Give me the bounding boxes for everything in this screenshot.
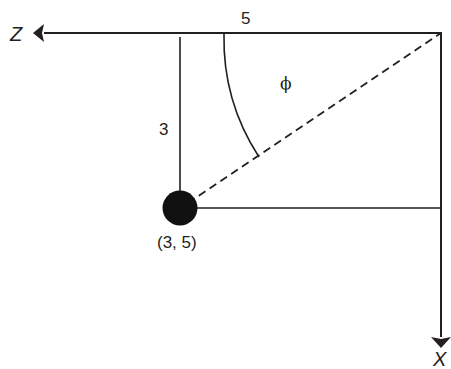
z-axis-label: Z [9, 23, 23, 45]
angle-label: ϕ [280, 73, 292, 93]
side-length-label: 3 [159, 120, 168, 139]
diagram-canvas: Z X 5 3 ϕ (3, 5) [0, 0, 451, 369]
point-marker [163, 191, 198, 226]
z-axis-arrowhead-icon [33, 24, 44, 42]
dashed-hypotenuse-line [188, 33, 441, 203]
top-length-label: 5 [241, 9, 250, 28]
angle-arc [224, 34, 259, 157]
x-axis-label: X [432, 348, 447, 369]
x-axis-arrowhead-icon [431, 337, 451, 348]
point-coordinates-label: (3, 5) [157, 233, 197, 252]
